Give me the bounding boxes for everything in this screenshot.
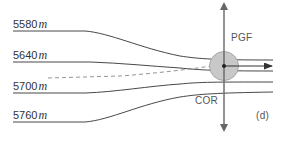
contour-unit: m bbox=[38, 79, 47, 93]
parcel-center-dot bbox=[222, 64, 226, 68]
cor-label: COR bbox=[195, 96, 218, 106]
contour-value: 5640 bbox=[13, 49, 37, 61]
contour-label-5760: 5760 m bbox=[13, 110, 47, 121]
contour-value: 5760 bbox=[13, 109, 37, 121]
pgf-label: PGF bbox=[231, 33, 252, 43]
contour-unit: m bbox=[38, 17, 47, 31]
contour-label-5700: 5700 m bbox=[13, 81, 47, 92]
panel-label: (d) bbox=[256, 111, 269, 121]
contour-label-5580: 5580 m bbox=[13, 19, 47, 30]
contour-unit: m bbox=[38, 48, 47, 62]
contour-value: 5700 bbox=[13, 80, 37, 92]
contour-line-5760 bbox=[13, 92, 273, 122]
parcel-trajectory-dashed bbox=[48, 66, 212, 78]
contour-unit: m bbox=[38, 108, 47, 122]
contour-line-5700 bbox=[13, 82, 273, 93]
contour-label-5640: 5640 m bbox=[13, 50, 47, 61]
contour-value: 5580 bbox=[13, 18, 37, 30]
